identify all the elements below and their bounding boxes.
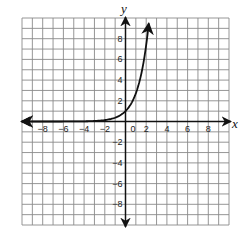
x-tick-label: −2 [100, 124, 110, 134]
y-tick-label: 2 [117, 96, 122, 106]
x-tick-label: 2 [144, 124, 149, 134]
x-tick-label: −6 [58, 124, 68, 134]
y-axis-label: y [119, 1, 127, 16]
x-tick-label: 0 [131, 124, 136, 134]
y-tick-label: −2 [112, 137, 122, 147]
x-tick-label: 4 [164, 124, 169, 134]
y-tick-label: −4 [112, 158, 122, 168]
coordinate-plane: −8−6−4−2024688642−2−4−6−8 x y [0, 0, 245, 231]
exponential-curve [22, 23, 149, 121]
y-tick-label: −8 [112, 199, 122, 209]
x-tick-label: 6 [185, 124, 190, 134]
y-tick-label: −6 [112, 179, 122, 189]
x-tick-label: −8 [38, 124, 48, 134]
y-tick-label: 6 [117, 54, 122, 64]
x-axis-label: x [231, 116, 238, 131]
x-tick-label: 8 [206, 124, 211, 134]
y-tick-label: 8 [117, 34, 122, 44]
y-tick-label: 4 [117, 75, 122, 85]
x-tick-label: −4 [79, 124, 89, 134]
